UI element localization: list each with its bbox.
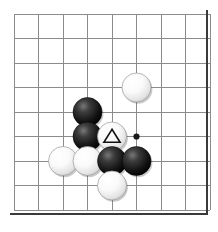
stone-body [98,171,127,200]
stone-body [122,73,151,102]
go-board-diagram [0,0,218,232]
stone-white [122,73,152,104]
stone-body [122,147,151,176]
stone-black [122,147,152,178]
star-point-icon [133,133,139,139]
board-star-points [133,133,139,139]
go-board-canvas [0,0,218,232]
stone-white [98,171,128,202]
